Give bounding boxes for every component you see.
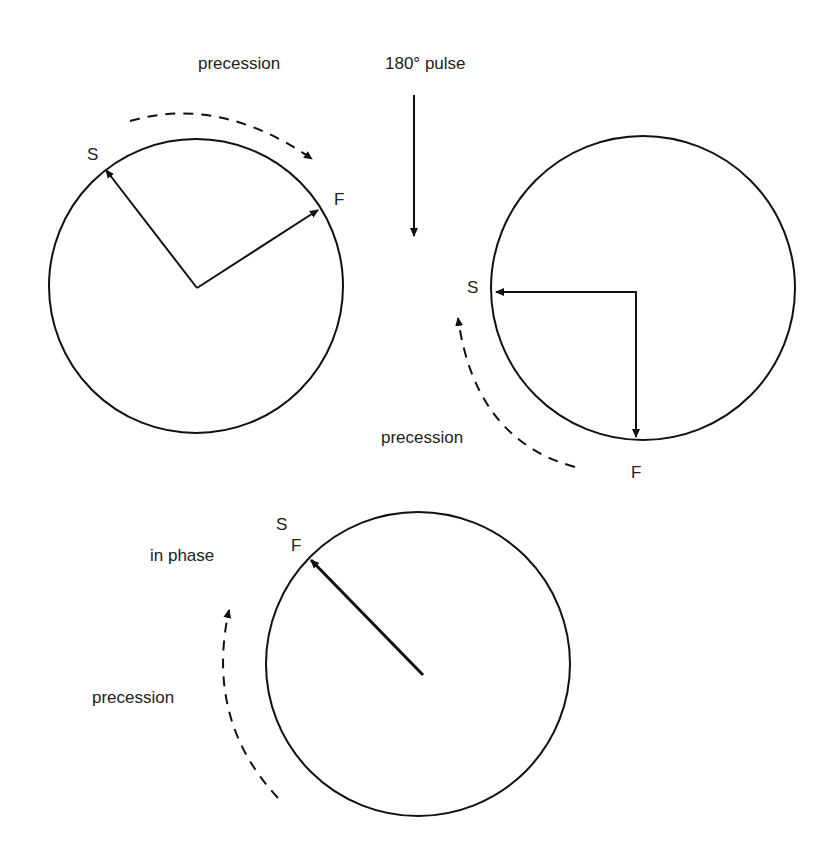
pulse-indicator: 180° pulse — [385, 54, 466, 236]
fast-label-1: F — [334, 190, 344, 209]
fast-label-3: F — [291, 536, 301, 555]
panel-before-pulse: precession S F — [49, 54, 344, 433]
fast-label-2: F — [631, 463, 641, 482]
slow-label-1: S — [87, 145, 98, 164]
circle-2 — [491, 136, 795, 440]
fast-vector-1 — [197, 210, 318, 288]
precession-label-2: precession — [381, 428, 463, 447]
precession-arc-3 — [223, 610, 278, 798]
slow-label-2: S — [467, 278, 478, 297]
precession-label-1: precession — [198, 54, 280, 73]
slow-label-3: S — [276, 515, 287, 534]
panel-refocused: S F in phase precession — [92, 512, 570, 816]
pulse-label: 180° pulse — [385, 54, 466, 73]
spin-echo-diagram: precession S F 180° pulse S F precession… — [0, 0, 835, 858]
precession-arc-2 — [458, 318, 575, 467]
panel-after-pulse: S F precession — [381, 136, 795, 482]
circle-3 — [266, 512, 570, 816]
slow-vector-1 — [106, 170, 197, 288]
combined-vector-3 — [311, 560, 423, 675]
precession-arc-1 — [130, 113, 312, 159]
precession-label-3: precession — [92, 688, 174, 707]
in-phase-label: in phase — [150, 546, 214, 565]
